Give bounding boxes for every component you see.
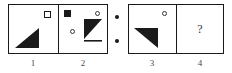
analogy-figure: ? 1 2 3 4 [0,0,232,73]
open-circle-icon-left [70,29,75,34]
open-square-icon [44,11,51,18]
open-circle-icon-top [95,11,100,16]
right-analogy-box: ? [128,4,224,54]
question-mark-placeholder: ? [197,23,202,35]
panel-label-4: 4 [192,58,208,68]
filled-square-icon [64,10,71,17]
panel-label-2: 2 [75,58,91,68]
open-circle-icon [162,11,167,16]
panel-1[interactable] [9,5,58,53]
black-triangle-icon [84,19,102,43]
black-triangle-icon [15,28,39,48]
panel-3[interactable] [129,5,176,53]
panel-2[interactable] [59,5,107,53]
left-analogy-box [8,4,108,54]
black-triangle-icon [134,28,158,48]
proportion-dot-top [115,15,119,19]
panel-4[interactable]: ? [177,5,223,53]
panel-label-1: 1 [25,58,41,68]
proportion-dot-bottom [115,39,119,43]
panel-label-3: 3 [144,58,160,68]
